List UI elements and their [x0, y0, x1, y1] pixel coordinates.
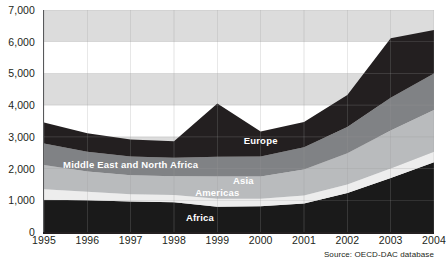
plot-svg	[44, 10, 434, 232]
x-axis-tick-label: 2000	[249, 235, 273, 246]
series-label-asia: Asia	[233, 177, 254, 187]
x-axis-tick-label: 1995	[32, 235, 56, 246]
plot-area	[44, 10, 434, 232]
y-axis-tick-label: 5,000	[8, 68, 35, 79]
cutoff-title-text	[250, 0, 440, 7]
x-axis-tick-label: 1996	[75, 235, 99, 246]
series-label-africa: Africa	[186, 213, 214, 223]
x-axis-tick-label: 2003	[379, 235, 403, 246]
x-axis-tick-label: 2002	[335, 235, 359, 246]
y-axis-line	[43, 10, 44, 232]
y-axis-tick-label: 1,000	[8, 195, 35, 206]
y-axis-tick-label: 2,000	[8, 163, 35, 174]
source-caption: Source: OECD-DAC database	[324, 251, 434, 259]
y-axis-tick-label: 7,000	[8, 5, 35, 16]
x-axis: 1995199619971998199920002001200220032004	[0, 235, 443, 249]
series-label-europe: Europe	[244, 136, 278, 146]
x-axis-tick-label: 1999	[205, 235, 229, 246]
x-axis-tick-label: 1997	[119, 235, 143, 246]
x-axis-line	[43, 232, 434, 234]
x-axis-tick-label: 2001	[292, 235, 316, 246]
series-label-middle-east-and-north-africa: Middle East and North Africa	[63, 161, 198, 171]
y-axis-tick-label: 6,000	[8, 36, 35, 47]
x-axis-tick-label: 1998	[162, 235, 186, 246]
x-axis-tick-label: 2004	[422, 235, 446, 246]
series-label-americas: Americas	[195, 189, 239, 199]
y-axis-tick-label: 4,000	[8, 100, 35, 111]
y-axis: 01,0002,0003,0004,0005,0006,0007,000	[0, 0, 38, 232]
y-axis-tick-label: 3,000	[8, 132, 35, 143]
grid-band	[44, 10, 434, 42]
